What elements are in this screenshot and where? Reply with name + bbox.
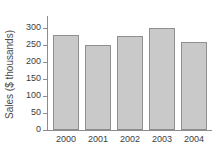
y-tick-label: 50 bbox=[31, 107, 41, 118]
bar bbox=[85, 45, 111, 130]
x-tick-label: 2001 bbox=[85, 133, 111, 145]
y-tick-label: 100 bbox=[26, 90, 41, 101]
bar bbox=[149, 28, 175, 130]
bar bbox=[117, 36, 143, 130]
bar-chart: Sales ($ thousands) 050100150200250300 2… bbox=[0, 0, 218, 157]
x-tick-label: 2004 bbox=[181, 133, 207, 145]
y-tick: 250 bbox=[0, 45, 47, 46]
x-tick-label: 2003 bbox=[149, 133, 175, 145]
y-tick-label: 300 bbox=[26, 22, 41, 33]
y-tick: 50 bbox=[0, 113, 47, 114]
x-axis-line bbox=[47, 130, 212, 131]
y-tick: 0 bbox=[0, 130, 47, 131]
y-tick-label: 150 bbox=[26, 73, 41, 84]
y-tick: 150 bbox=[0, 79, 47, 80]
x-tick-label: 2002 bbox=[117, 133, 143, 145]
y-tick: 100 bbox=[0, 96, 47, 97]
plot-area bbox=[47, 16, 210, 130]
y-tick-label: 200 bbox=[26, 56, 41, 67]
y-tick: 200 bbox=[0, 62, 47, 63]
bar bbox=[181, 42, 207, 130]
y-tick-mark bbox=[43, 130, 47, 131]
y-tick-label: 250 bbox=[26, 39, 41, 50]
y-tick-label: 0 bbox=[36, 124, 41, 135]
bar bbox=[53, 35, 79, 130]
x-tick-label: 2000 bbox=[53, 133, 79, 145]
y-tick: 300 bbox=[0, 28, 47, 29]
